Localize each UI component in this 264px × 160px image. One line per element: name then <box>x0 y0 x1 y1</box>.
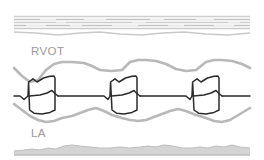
rvot-label: RVOT <box>31 45 64 57</box>
la-label: LA <box>31 127 46 139</box>
tracing-canvas: RVOT LA <box>0 0 264 160</box>
echo-tracing-figure: RVOT LA <box>0 0 264 160</box>
